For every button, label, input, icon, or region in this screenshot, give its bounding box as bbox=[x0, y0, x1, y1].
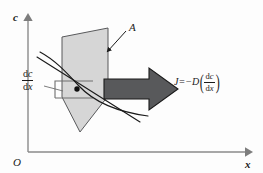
paren-open-icon: ( bbox=[200, 73, 204, 90]
tangent-point-marker bbox=[74, 86, 79, 91]
flux-arrow bbox=[104, 68, 178, 110]
paren-close-icon: ) bbox=[215, 73, 219, 90]
plane-group bbox=[62, 28, 108, 132]
flux-numerator-var: c bbox=[210, 71, 214, 81]
position-axis-label: x bbox=[244, 158, 251, 170]
area-leader-arrow bbox=[107, 31, 126, 52]
gradient-fraction: dc dx bbox=[22, 69, 33, 92]
concentration-axis-label: c bbox=[13, 11, 18, 23]
gradient-numerator: dc bbox=[22, 69, 33, 81]
flux-denominator-var: x bbox=[210, 83, 214, 93]
figure-canvas: c x O A bbox=[0, 0, 263, 173]
area-label: A bbox=[128, 21, 136, 33]
flux-gradient-fraction: dc dx bbox=[204, 72, 214, 92]
flux-equation: J=−D ( dc dx ) bbox=[174, 72, 220, 92]
diffusion-plane bbox=[62, 28, 108, 132]
gradient-leader-line bbox=[44, 86, 63, 91]
flux-equation-lead: J=−D bbox=[174, 77, 199, 87]
gradient-label: dc dx bbox=[22, 69, 33, 92]
gradient-denominator: dx bbox=[22, 81, 33, 92]
diffusion-figure: c x O A dc bbox=[0, 0, 263, 173]
flux-denominator: dx bbox=[204, 83, 214, 93]
flux-numerator: dc bbox=[204, 72, 214, 83]
gradient-denominator-var: x bbox=[28, 81, 32, 92]
origin-label: O bbox=[13, 156, 21, 168]
gradient-numerator-var: c bbox=[28, 68, 32, 79]
